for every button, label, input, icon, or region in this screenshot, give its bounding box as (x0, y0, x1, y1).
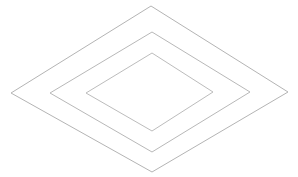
figure-canvas (0, 0, 298, 177)
diamonds-svg (0, 0, 298, 177)
